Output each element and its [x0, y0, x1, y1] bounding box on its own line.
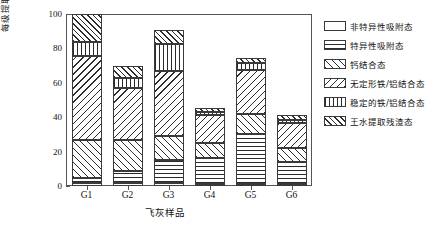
bar-segment-g2-s5[interactable] — [113, 78, 143, 88]
bar-segment-g2-s4[interactable] — [113, 88, 143, 140]
legend-label: 特异性吸附态 — [350, 39, 404, 51]
x-tick-label-g6: G6 — [272, 190, 312, 200]
legend-swatch-vertical-lines — [324, 97, 346, 107]
bar-g5[interactable] — [236, 58, 266, 186]
legend: 非特异性吸附态特异性吸附态钙结合态无定形铁/铝结合态稳定的铁/铝结合态王水提取残… — [324, 16, 438, 130]
bar-segment-g4-s4[interactable] — [195, 115, 225, 143]
bar-segment-g3-s6[interactable] — [154, 30, 184, 44]
y-tick-label: 80 — [32, 44, 62, 52]
y-tick-label: 100 — [32, 10, 62, 18]
bar-segment-g6-s5[interactable] — [277, 120, 307, 123]
legend-swatch-checkerboard — [324, 116, 346, 126]
bar-segment-g4-s6[interactable] — [195, 108, 225, 112]
legend-item-3[interactable]: 钙结合态 — [324, 54, 438, 73]
bar-segment-g6-s6[interactable] — [277, 115, 307, 119]
y-axis-title: 每级提取砷含量/总砷含量/% — [0, 0, 12, 34]
bar-segment-g3-s4[interactable] — [154, 71, 184, 136]
chart-figure: { "chart_data": { "type": "bar", "subtyp… — [0, 0, 440, 227]
legend-label: 无定形铁/铝结合态 — [350, 77, 425, 89]
x-tick-label-g4: G4 — [190, 190, 230, 200]
bar-segment-g5-s4[interactable] — [236, 70, 266, 114]
y-tick-label: 20 — [32, 148, 62, 156]
bar-segment-g2-s6[interactable] — [113, 66, 143, 78]
bar-segment-g1-s5[interactable] — [72, 42, 102, 57]
x-tick-label-g3: G3 — [149, 190, 189, 200]
y-tick-mark — [66, 186, 70, 187]
x-tick-label-g2: G2 — [108, 190, 148, 200]
legend-item-6[interactable]: 王水提取残渣态 — [324, 111, 438, 130]
y-tick-label: 40 — [32, 113, 62, 121]
bar-g6[interactable] — [277, 115, 307, 186]
legend-swatch-backslash-hatch — [324, 59, 346, 69]
bar-segment-g4-s5[interactable] — [195, 112, 225, 115]
bar-group — [66, 14, 312, 186]
bar-segment-g2-s2[interactable] — [113, 171, 143, 183]
bar-segment-g2-s3[interactable] — [113, 140, 143, 171]
bar-segment-g1-s3[interactable] — [72, 140, 102, 179]
legend-label: 非特异性吸附态 — [350, 20, 413, 32]
bar-segment-g5-s3[interactable] — [236, 114, 266, 135]
bar-segment-g3-s3[interactable] — [154, 136, 184, 160]
bar-g3[interactable] — [154, 30, 184, 186]
bar-g2[interactable] — [113, 66, 143, 186]
bar-segment-g5-s2[interactable] — [236, 134, 266, 184]
bar-segment-g1-s2[interactable] — [72, 178, 102, 182]
bar-segment-g4-s3[interactable] — [195, 143, 225, 158]
x-tick-label-g5: G5 — [231, 190, 271, 200]
legend-item-5[interactable]: 稳定的铁/铝结合态 — [324, 92, 438, 111]
bar-g1[interactable] — [72, 14, 102, 186]
legend-label: 稳定的铁/铝结合态 — [350, 96, 425, 108]
legend-item-4[interactable]: 无定形铁/铝结合态 — [324, 73, 438, 92]
legend-swatch-forwardslash-hatch — [324, 78, 346, 88]
bar-g4[interactable] — [195, 108, 225, 186]
bar-segment-g6-s4[interactable] — [277, 123, 307, 148]
bar-segment-g3-s5[interactable] — [154, 44, 184, 71]
x-tick-label-g1: G1 — [67, 190, 107, 200]
legend-label: 钙结合态 — [350, 58, 386, 70]
bar-segment-g4-s2[interactable] — [195, 158, 225, 184]
x-axis-title: 飞灰样品 — [0, 205, 330, 219]
bar-segment-g5-s6[interactable] — [236, 58, 266, 63]
y-tick-label: 0 — [32, 182, 62, 190]
legend-item-1[interactable]: 非特异性吸附态 — [324, 16, 438, 35]
bar-segment-g1-s6[interactable] — [72, 14, 102, 42]
y-tick-label: 60 — [32, 79, 62, 87]
bar-segment-g6-s2[interactable] — [277, 162, 307, 184]
legend-label: 王水提取残渣态 — [350, 115, 413, 127]
legend-item-2[interactable]: 特异性吸附态 — [324, 35, 438, 54]
legend-swatch-horizontal-lines — [324, 40, 346, 50]
bar-segment-g3-s2[interactable] — [154, 160, 184, 182]
bar-segment-g1-s4[interactable] — [72, 56, 102, 139]
bar-segment-g6-s3[interactable] — [277, 148, 307, 162]
bar-segment-g5-s5[interactable] — [236, 63, 266, 70]
legend-swatch-blank — [324, 21, 346, 31]
